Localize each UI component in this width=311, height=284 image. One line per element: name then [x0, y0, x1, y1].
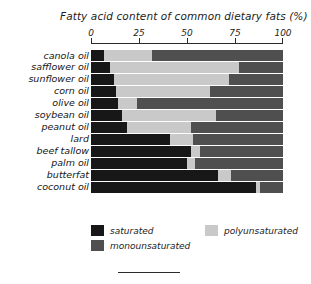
bar-row: coconut oil: [0, 182, 311, 193]
bar-segment-saturated: [91, 86, 116, 97]
bar-segment-saturated: [91, 158, 187, 169]
chart-container: Fatty acid content of common dietary fat…: [0, 0, 311, 284]
bar-segment-monounsaturated: [193, 134, 283, 145]
bar-segment-saturated: [91, 146, 191, 157]
bar-segment-saturated: [91, 62, 110, 73]
bar-category-label: soybean oil: [35, 109, 89, 121]
bar-category-label: peanut oil: [41, 121, 89, 133]
x-axis-tick-label: 0: [88, 28, 94, 38]
chart-title: Fatty acid content of common dietary fat…: [60, 10, 305, 22]
bar-segment-saturated: [91, 110, 122, 121]
bar-segment-monounsaturated: [260, 182, 283, 193]
bar-track: [91, 134, 283, 145]
bar-segment-polyunsaturated: [116, 86, 210, 97]
bar-row: sunflower oil: [0, 74, 311, 85]
bar-track: [91, 98, 283, 109]
x-axis: 0255075100: [91, 28, 283, 50]
legend-item: saturated: [91, 225, 153, 236]
bar-category-label: palm oil: [51, 157, 89, 169]
bar-category-label: safflower oil: [31, 61, 89, 73]
bar-segment-monounsaturated: [216, 110, 283, 121]
bar-segment-polyunsaturated: [110, 62, 239, 73]
bar-row: peanut oil: [0, 122, 311, 133]
legend-swatch: [205, 225, 218, 236]
bar-segment-monounsaturated: [231, 170, 283, 181]
legend-label: saturated: [110, 226, 153, 236]
bar-segment-polyunsaturated: [122, 110, 216, 121]
bar-track: [91, 170, 283, 181]
bar-row: lard: [0, 134, 311, 145]
bar-segment-polyunsaturated: [127, 122, 190, 133]
bar-track: [91, 110, 283, 121]
bar-segment-monounsaturated: [137, 98, 283, 109]
bar-category-label: sunflower oil: [28, 73, 89, 85]
bar-segment-monounsaturated: [191, 122, 283, 133]
bar-row: safflower oil: [0, 62, 311, 73]
bar-category-label: lard: [71, 133, 89, 145]
bar-track: [91, 158, 283, 169]
bar-segment-polyunsaturated: [104, 50, 152, 61]
bar-row: soybean oil: [0, 110, 311, 121]
bar-track: [91, 50, 283, 61]
bar-category-label: corn oil: [54, 85, 89, 97]
x-axis-tick-label: 75: [229, 28, 240, 38]
bar-rows: canola oilsafflower oilsunflower oilcorn…: [0, 50, 311, 194]
bar-segment-saturated: [91, 74, 114, 85]
bar-segment-polyunsaturated: [218, 170, 231, 181]
bar-segment-monounsaturated: [200, 146, 283, 157]
bar-segment-polyunsaturated: [187, 158, 195, 169]
bottom-divider: [118, 272, 180, 273]
bar-segment-saturated: [91, 182, 256, 193]
bar-category-label: butterfat: [47, 169, 89, 181]
bar-segment-monounsaturated: [210, 86, 283, 97]
bar-row: corn oil: [0, 86, 311, 97]
bar-category-label: beef tallow: [37, 145, 90, 157]
bar-row: palm oil: [0, 158, 311, 169]
legend-label: polyunsaturated: [224, 226, 298, 236]
bar-segment-polyunsaturated: [191, 146, 201, 157]
x-axis-tick-label: 25: [133, 28, 144, 38]
bar-row: canola oil: [0, 50, 311, 61]
x-axis-line: [91, 43, 283, 44]
bar-segment-polyunsaturated: [118, 98, 137, 109]
bar-category-label: olive oil: [52, 97, 89, 109]
bar-segment-monounsaturated: [229, 74, 283, 85]
bar-segment-saturated: [91, 50, 104, 61]
bar-track: [91, 62, 283, 73]
legend-swatch: [91, 240, 104, 251]
bar-row: butterfat: [0, 170, 311, 181]
bar-row: beef tallow: [0, 146, 311, 157]
x-axis-tick-label: 50: [181, 28, 192, 38]
bar-segment-monounsaturated: [239, 62, 283, 73]
bar-track: [91, 86, 283, 97]
legend-swatch: [91, 225, 104, 236]
bar-category-label: coconut oil: [37, 181, 89, 193]
bar-segment-polyunsaturated: [170, 134, 193, 145]
bar-row: olive oil: [0, 98, 311, 109]
bar-segment-saturated: [91, 98, 118, 109]
bar-segment-saturated: [91, 134, 170, 145]
bar-segment-saturated: [91, 122, 127, 133]
bar-segment-polyunsaturated: [114, 74, 229, 85]
bar-track: [91, 146, 283, 157]
x-axis-tick-label: 100: [274, 28, 291, 38]
bar-track: [91, 182, 283, 193]
bar-track: [91, 74, 283, 85]
bar-segment-monounsaturated: [195, 158, 283, 169]
bar-segment-monounsaturated: [152, 50, 283, 61]
chart-legend: saturatedpolyunsaturatedmonounsaturated: [91, 225, 306, 259]
bar-segment-saturated: [91, 170, 218, 181]
legend-label: monounsaturated: [110, 241, 190, 251]
bar-category-label: canola oil: [44, 50, 89, 62]
legend-item: monounsaturated: [91, 240, 190, 251]
bar-track: [91, 122, 283, 133]
legend-item: polyunsaturated: [205, 225, 298, 236]
